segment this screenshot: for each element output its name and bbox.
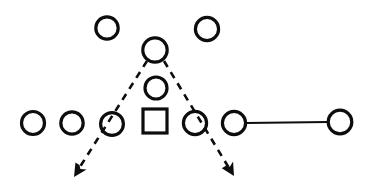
diagram-canvas — [0, 0, 375, 192]
node-square-center — [143, 109, 167, 133]
node-circle-row-6 — [328, 110, 352, 134]
arrow-right-head — [222, 161, 234, 176]
node-circle-top-left — [96, 17, 118, 39]
diagram-root — [0, 0, 375, 192]
node-circle-row-5 — [222, 111, 245, 134]
edge-dashed-right — [164, 61, 229, 168]
edge-solid-right — [246, 122, 328, 123]
edge-dashed-left — [78, 61, 147, 170]
node-circle-row-4 — [183, 111, 206, 134]
node-circle-top-right — [195, 17, 218, 40]
node-circle-middle — [145, 77, 167, 99]
node-circle-apex — [143, 38, 167, 62]
node-circle-row-1 — [22, 112, 45, 135]
node-circle-row-2 — [61, 112, 83, 134]
